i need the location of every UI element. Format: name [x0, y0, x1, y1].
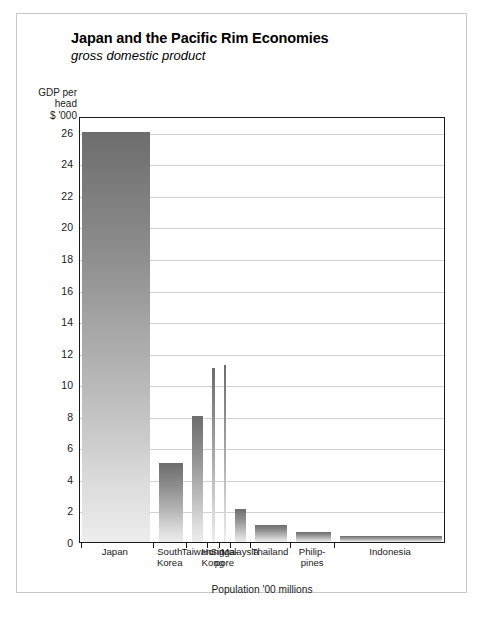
- y-axis-tick-label: 2: [29, 505, 73, 517]
- x-axis-tick-label-line: pore: [211, 558, 239, 569]
- bar: [255, 525, 286, 542]
- x-axis-tick-label-line: pines: [299, 558, 326, 569]
- x-axis-tick-label-line: Korea: [157, 558, 183, 569]
- y-axis-caption-line-1: GDP per: [21, 87, 77, 98]
- y-axis-tick-label: 18: [29, 253, 73, 265]
- figure-card: Japan and the Pacific Rim Economies gros…: [16, 13, 467, 593]
- chart-subtitle: gross domestic product: [71, 48, 451, 64]
- y-axis-caption-line-2: head: [21, 98, 77, 109]
- y-axis-tick-label: 22: [29, 190, 73, 202]
- x-axis-tick-label: Japan: [102, 547, 128, 558]
- x-axis-tick-label-line: Philip-: [299, 547, 326, 558]
- y-axis-tick-label: 10: [29, 379, 73, 391]
- bar: [296, 532, 331, 542]
- x-axis-tick-labels: JapanSouthKoreaTaiwanHongKongSinga-poreM…: [79, 547, 445, 577]
- y-axis-tick-label: 0: [29, 537, 73, 549]
- plot-area: [80, 118, 444, 542]
- page-title: Japan and the Pacific Rim Economies: [71, 30, 451, 47]
- y-axis-tick-label: 26: [29, 127, 73, 139]
- y-axis-tick-label: 24: [29, 158, 73, 170]
- x-axis-tick-label-line: Thailand: [252, 547, 289, 558]
- x-axis-tick-label-line: Indonesia: [369, 547, 411, 558]
- y-axis-tick-label: 14: [29, 316, 73, 328]
- bar: [82, 132, 150, 542]
- plot-frame: [79, 117, 445, 543]
- y-axis-tick-label: 16: [29, 285, 73, 297]
- y-axis-tick-label: 4: [29, 474, 73, 486]
- title-block: Japan and the Pacific Rim Economies gros…: [71, 30, 451, 64]
- bar: [192, 416, 203, 542]
- x-axis-tick-label-line: Japan: [102, 547, 128, 558]
- bar: [235, 509, 246, 542]
- bar: [224, 365, 226, 542]
- y-axis-tick-labels: 02468101214161820222426: [25, 117, 73, 543]
- x-axis-tick-label: Thailand: [252, 547, 289, 558]
- x-axis-tick-label: SouthKorea: [157, 547, 183, 568]
- bar: [159, 463, 183, 542]
- x-axis-tick-label: Indonesia: [369, 547, 411, 558]
- y-axis-tick-label: 20: [29, 221, 73, 233]
- y-axis-tick-label: 12: [29, 348, 73, 360]
- x-axis-tick-label: Philip-pines: [299, 547, 326, 568]
- x-axis-title: Population '00 millions: [79, 584, 445, 595]
- y-axis-tick-label: 8: [29, 411, 73, 423]
- x-axis-tick-label-line: South: [157, 547, 183, 558]
- bar: [212, 368, 215, 542]
- y-axis-tick-label: 6: [29, 442, 73, 454]
